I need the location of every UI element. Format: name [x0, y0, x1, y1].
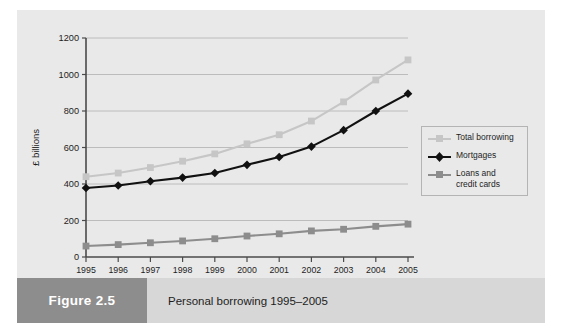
- data-point-marker: [372, 223, 379, 230]
- figure-number-label: Figure 2.5: [49, 293, 116, 308]
- data-point-marker: [243, 161, 252, 170]
- legend-label-loans-and-credit-cards: Loans andcredit cards: [456, 168, 500, 189]
- figure-title-container: Personal borrowing 1995–2005: [147, 278, 545, 323]
- legend-label-line-2: credit cards: [456, 179, 500, 189]
- y-tick-label: 1000: [59, 70, 79, 80]
- legend-item-mortgages: Mortgages: [427, 150, 522, 163]
- data-point-marker: [115, 170, 122, 177]
- x-axis: 1995199619971998199920002001200220032004…: [76, 257, 418, 275]
- data-point-marker: [340, 226, 347, 233]
- figure-caption-bar: Figure 2.5 Personal borrowing 1995–2005: [17, 278, 545, 323]
- series-loans-and-credit-cards: [83, 221, 412, 250]
- legend-label-mortgages: Mortgages: [456, 150, 496, 161]
- square-marker-icon: [427, 133, 452, 145]
- data-point-marker: [404, 89, 413, 98]
- data-point-marker: [179, 158, 186, 165]
- x-tick-label: 2002: [302, 265, 322, 275]
- y-axis-label: £ billions: [30, 129, 41, 166]
- x-tick-label: 1999: [205, 265, 225, 275]
- data-point-marker: [275, 153, 284, 162]
- y-tick-label: 600: [64, 143, 79, 153]
- figure-number-badge: Figure 2.5: [17, 278, 147, 323]
- data-point-marker: [83, 243, 90, 250]
- legend-label-total-borrowing: Total borrowing: [456, 132, 514, 143]
- data-point-marker: [147, 164, 154, 171]
- data-point-marker: [276, 131, 283, 138]
- legend-label-line-1: Loans and: [456, 168, 496, 178]
- x-tick-label: 2003: [334, 265, 354, 275]
- y-axis: 020040060080010001200: [59, 33, 86, 262]
- y-tick-label: 800: [64, 106, 79, 116]
- x-tick-label: 2004: [366, 265, 386, 275]
- data-point-marker: [405, 221, 412, 228]
- data-point-marker: [244, 233, 251, 240]
- data-point-marker: [211, 169, 220, 178]
- data-point-marker: [405, 57, 412, 64]
- data-point-marker: [340, 98, 347, 105]
- data-point-marker: [211, 150, 218, 157]
- diamond-marker-icon: [427, 151, 452, 163]
- legend-item-loans-and-credit-cards: Loans andcredit cards: [427, 168, 522, 189]
- data-point-marker: [178, 173, 187, 182]
- data-point-marker: [147, 239, 154, 246]
- data-point-marker: [114, 181, 123, 190]
- x-tick-label: 1996: [108, 265, 128, 275]
- figure-container: 020040060080010001200 199519961997199819…: [17, 10, 545, 323]
- x-tick-label: 1995: [76, 265, 96, 275]
- data-point-marker: [115, 241, 122, 248]
- x-tick-label: 1997: [141, 265, 161, 275]
- figure-title-label: Personal borrowing 1995–2005: [168, 295, 328, 307]
- chart-plot-area: 020040060080010001200 199519961997199819…: [17, 10, 545, 278]
- x-tick-label: 2005: [398, 265, 418, 275]
- data-point-marker: [307, 142, 316, 151]
- chart-legend: Total borrowing Mortgages: [421, 126, 528, 196]
- legend-item-total-borrowing: Total borrowing: [427, 132, 522, 145]
- data-point-marker: [211, 235, 218, 242]
- y-tick-label: 0: [74, 252, 79, 262]
- data-point-marker: [308, 228, 315, 235]
- data-point-marker: [82, 184, 91, 193]
- data-point-marker: [179, 238, 186, 245]
- data-point-marker: [244, 140, 251, 147]
- data-point-marker: [83, 173, 90, 180]
- y-tick-label: 1200: [59, 33, 79, 43]
- x-tick-label: 2000: [237, 265, 257, 275]
- x-tick-label: 2001: [269, 265, 289, 275]
- data-point-marker: [276, 230, 283, 237]
- y-tick-label: 400: [64, 179, 79, 189]
- data-point-marker: [308, 118, 315, 125]
- x-tick-label: 1998: [173, 265, 193, 275]
- gridlines: [86, 38, 408, 221]
- data-point-marker: [372, 77, 379, 84]
- square-marker-icon: [427, 169, 452, 181]
- y-tick-label: 200: [64, 216, 79, 226]
